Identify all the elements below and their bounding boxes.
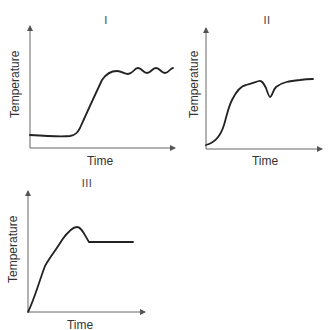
panel-i-axes [30, 26, 175, 148]
panel-iii-axes [28, 191, 145, 312]
diagram-canvas [0, 0, 336, 330]
panel-i-curve [30, 68, 173, 136]
panel-ii-curve [206, 79, 313, 145]
panel-ii-axes [206, 28, 322, 149]
panel-iii-curve [28, 227, 133, 312]
